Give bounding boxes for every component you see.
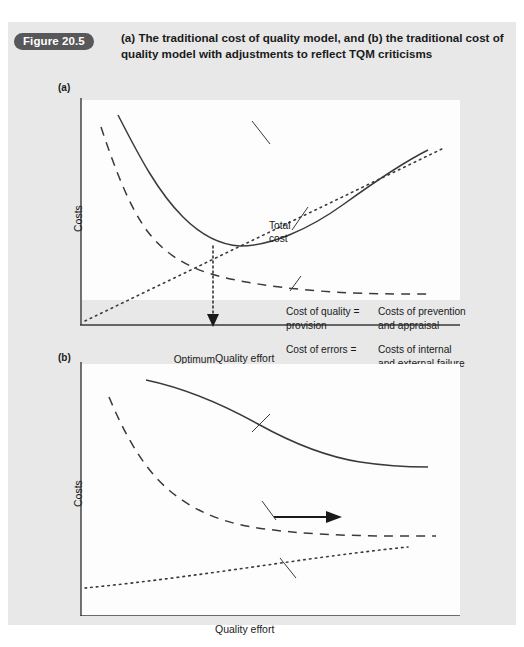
figure-panel: Figure 20.5 (a) The traditional cost of …: [8, 22, 516, 625]
figure-header: Figure 20.5 (a) The traditional cost of …: [8, 28, 516, 76]
chart-a-coq-lead-2: provision: [286, 319, 378, 333]
figure-title-line-1: (a) The traditional cost of quality mode…: [121, 31, 504, 44]
chart-a-total-cost-label: Total cost: [269, 219, 291, 245]
chart-a-coq-lead-1: Cost of quality =: [286, 305, 378, 319]
chart-a-plot: [8, 80, 516, 330]
figure-title-line-2: quality model with adjustments to reflec…: [121, 47, 432, 60]
chart-b: Total cost Cost of errors =Costs of inte…: [8, 350, 516, 616]
chart-b-plot-background: [81, 364, 460, 616]
figure-title: (a) The traditional cost of quality mode…: [121, 30, 511, 61]
chart-a: Total cost Cost of quality =Costs of pre…: [8, 80, 516, 330]
chart-b-x-axis-label: Quality effort: [215, 623, 274, 635]
figure-number-badge: Figure 20.5: [14, 33, 94, 50]
chart-b-plot: [8, 350, 516, 616]
chart-a-coq-val-2: and appraisal: [378, 320, 439, 331]
chart-b-y-axis-label: Costs: [72, 480, 84, 507]
chart-a-coq-val-1: Costs of prevention: [378, 306, 466, 317]
chart-a-plot-background: [81, 100, 460, 300]
chart-a-y-axis-label: Costs: [72, 205, 84, 232]
chart-a-cost-of-quality-label: Cost of quality =Costs of prevention pro…: [286, 305, 466, 332]
chart-a-total-cost-line-1: Total: [269, 219, 291, 232]
chart-a-total-cost-line-2: cost: [269, 232, 291, 245]
